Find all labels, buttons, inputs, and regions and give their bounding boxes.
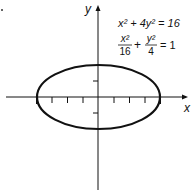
frac1-numerator: x² <box>120 33 130 44</box>
ellipse-diagram: y x x² + 4y² = 16 x² 16 + y² 4 = 1 <box>0 0 196 194</box>
dot-mark <box>1 9 3 11</box>
frac2-denominator: 4 <box>148 46 154 57</box>
y-axis-label: y <box>84 2 92 16</box>
x-axis-label: x <box>183 101 191 115</box>
equals-one: = 1 <box>160 39 176 51</box>
equation-normalized: x² 16 + y² 4 = 1 <box>118 33 176 57</box>
y-axis-arrow-icon <box>96 5 101 11</box>
frac2-numerator: y² <box>146 33 156 44</box>
frac1-denominator: 16 <box>119 46 131 57</box>
x-axis-arrow-icon <box>182 95 188 100</box>
equation-standard: x² + 4y² = 16 <box>117 17 181 29</box>
plus-sign: + <box>134 38 141 52</box>
